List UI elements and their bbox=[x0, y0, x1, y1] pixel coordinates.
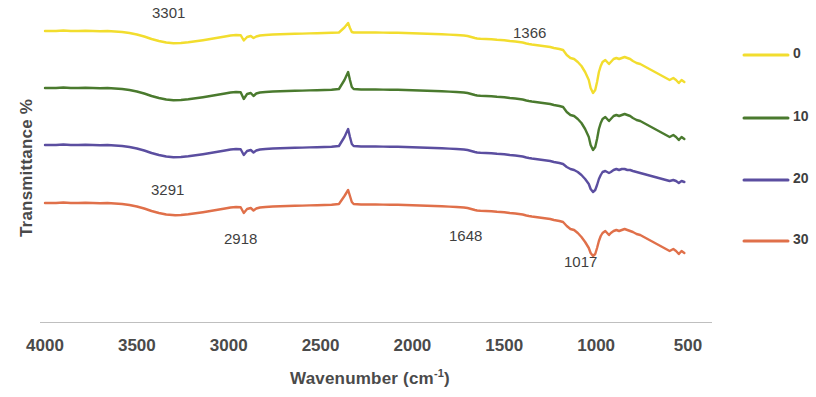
legend-label-0: 0 bbox=[793, 45, 801, 61]
x-axis-label-base: Wavenumber (cm bbox=[290, 369, 434, 388]
x-tick-1500: 1500 bbox=[469, 336, 539, 356]
series-line-30 bbox=[45, 190, 684, 256]
x-tick-2000: 2000 bbox=[377, 336, 447, 356]
peak-label-1017: 1017 bbox=[564, 253, 597, 270]
x-tick-4000: 4000 bbox=[10, 336, 80, 356]
peak-label-2918: 2918 bbox=[224, 230, 257, 247]
legend-label-10: 10 bbox=[793, 108, 809, 124]
x-tick-3000: 3000 bbox=[194, 336, 264, 356]
y-axis-label: Transmittance % bbox=[17, 68, 37, 268]
x-axis-label: Wavenumber (cm-1) bbox=[0, 367, 740, 389]
peak-label-1366: 1366 bbox=[513, 24, 546, 41]
x-axis-label-superscript: -1 bbox=[434, 367, 444, 379]
legend-swatch-group bbox=[744, 55, 788, 241]
peak-label-3301: 3301 bbox=[152, 4, 185, 21]
legend-label-30: 30 bbox=[793, 231, 809, 247]
ftir-spectra-chart: Transmittance % Wavenumber (cm-1) 400035… bbox=[0, 0, 816, 397]
series-paths-group bbox=[45, 23, 684, 256]
peak-label-1648: 1648 bbox=[449, 227, 482, 244]
series-line-0 bbox=[45, 23, 684, 93]
x-axis-label-tail: ) bbox=[444, 369, 450, 388]
x-tick-500: 500 bbox=[653, 336, 723, 356]
x-tick-2500: 2500 bbox=[286, 336, 356, 356]
peak-label-3291: 3291 bbox=[151, 181, 184, 198]
legend-label-20: 20 bbox=[793, 170, 809, 186]
x-tick-3500: 3500 bbox=[102, 336, 172, 356]
x-tick-1000: 1000 bbox=[561, 336, 631, 356]
